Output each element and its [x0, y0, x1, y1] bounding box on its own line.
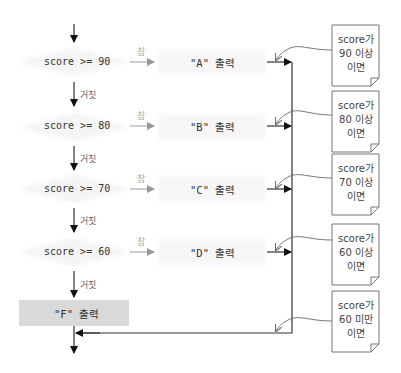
condition-80: score >= 80 — [44, 120, 110, 131]
note-70: score가70 이상이면 — [333, 154, 379, 214]
false-label: 거짓 — [80, 214, 96, 227]
true-label: 참 — [137, 109, 145, 122]
condition-90: score >= 90 — [44, 56, 110, 67]
false-label: 거짓 — [80, 152, 96, 165]
note-else: score가60 미만이면 — [333, 291, 379, 351]
note-60: score가60 이상이면 — [333, 224, 379, 284]
true-label: 참 — [137, 45, 145, 58]
output-c: "C" 출력 — [190, 182, 235, 197]
output-d: "D" 출력 — [190, 245, 235, 260]
output-b: "B" 출력 — [190, 119, 235, 134]
note-80: score가80 이상이면 — [333, 91, 379, 151]
true-label: 참 — [137, 172, 145, 185]
output-f: "F" 출력 — [54, 306, 99, 321]
note-90: score가90 이상이면 — [333, 25, 379, 85]
false-label: 거짓 — [80, 88, 96, 101]
condition-70: score >= 70 — [44, 183, 110, 194]
output-a: "A" 출력 — [190, 55, 235, 70]
true-label: 참 — [137, 235, 145, 248]
condition-60: score >= 60 — [44, 246, 110, 257]
false-label: 거짓 — [80, 278, 96, 291]
